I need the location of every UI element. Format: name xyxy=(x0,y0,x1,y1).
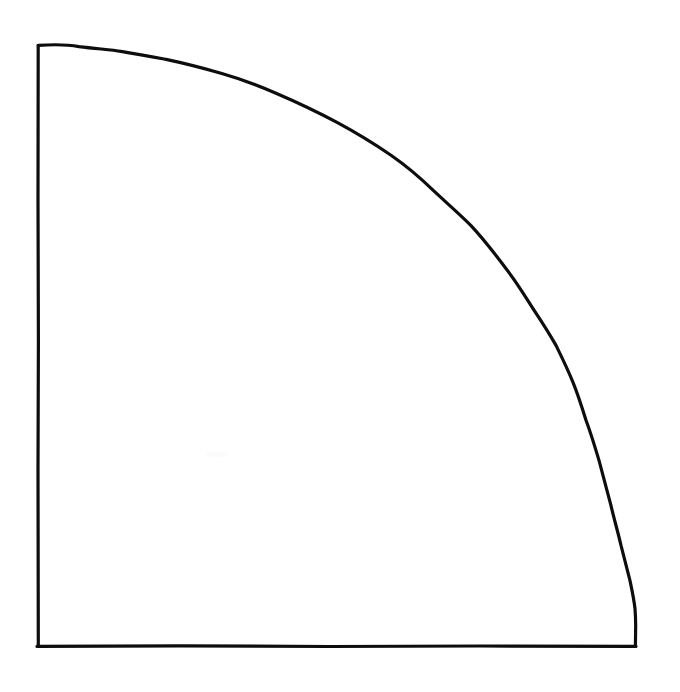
quarter-circle-drawing xyxy=(0,0,680,692)
figure-canvas xyxy=(0,0,680,692)
bottom-edge-line xyxy=(37,646,636,647)
drawing-background xyxy=(0,0,680,692)
